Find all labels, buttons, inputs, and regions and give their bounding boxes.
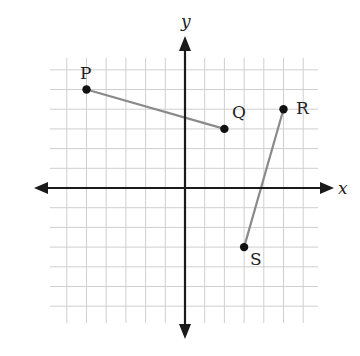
point-label-p: P	[80, 63, 91, 83]
coordinate-plane-diagram: y x P Q R S	[0, 0, 360, 356]
point-p	[82, 85, 90, 93]
coordinate-plane: y x P Q R S	[0, 0, 360, 356]
x-axis-left-arrow-icon	[34, 182, 48, 194]
point-r	[279, 105, 287, 113]
point-label-q: Q	[232, 102, 246, 122]
y-axis-up-arrow-icon	[179, 36, 191, 51]
point-label-r: R	[296, 98, 310, 118]
point-q	[220, 125, 228, 133]
point-label-s: S	[250, 249, 262, 269]
y-axis-label: y	[180, 11, 191, 31]
x-axis-right-arrow-icon	[320, 182, 334, 194]
point-s	[240, 243, 248, 251]
x-axis-label: x	[338, 178, 348, 198]
y-axis-down-arrow-icon	[179, 324, 191, 339]
